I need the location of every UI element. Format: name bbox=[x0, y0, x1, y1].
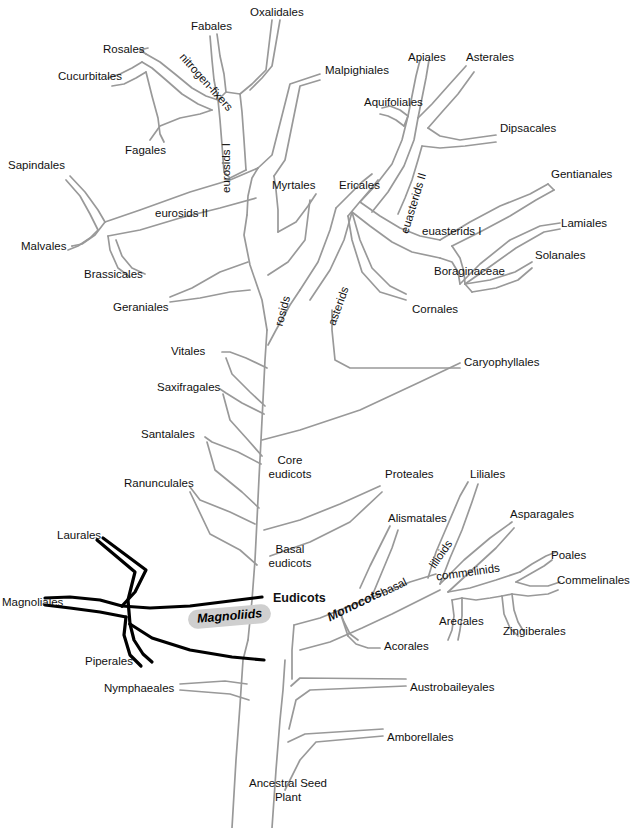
clade-label-eurosids-i: eurosids I bbox=[220, 143, 232, 193]
taxon-label-aquifoliales: Aquifoliales bbox=[364, 96, 423, 109]
taxon-label-brassicales: Brassicales bbox=[84, 268, 143, 281]
taxon-label-acorales: Acorales bbox=[384, 640, 429, 653]
branch-fabales-b bbox=[217, 34, 226, 92]
taxon-label-austrobaileyales: Austrobaileyales bbox=[410, 681, 494, 694]
taxon-label-zingiberales: Zingiberales bbox=[503, 625, 566, 638]
taxon-label-asterales: Asterales bbox=[466, 51, 514, 64]
branch-eudicot-left-wall bbox=[248, 330, 267, 640]
clade-label-core-eudicots: Core eudicots bbox=[255, 453, 325, 481]
taxon-label-lamiales: Lamiales bbox=[561, 217, 607, 230]
basal-eudicots-line1: Basal bbox=[276, 543, 305, 555]
branch-alismatales-a bbox=[360, 526, 390, 588]
taxon-label-rosales: Rosales bbox=[103, 43, 145, 56]
branch-fagales-b bbox=[146, 72, 164, 142]
taxon-label-cucurbitales: Cucurbitales bbox=[58, 70, 122, 83]
clade-label-eudicots: Eudicots bbox=[273, 592, 326, 605]
taxon-label-ericales: Ericales bbox=[339, 179, 380, 192]
branch-gent-tip bbox=[548, 184, 554, 190]
branch-santalales bbox=[207, 442, 259, 508]
core-eudicots-line2: eudicots bbox=[269, 468, 312, 480]
branch-acorales-b bbox=[348, 636, 380, 648]
branch-ranunculales-b bbox=[190, 487, 255, 524]
taxon-label-fagales: Fagales bbox=[125, 144, 166, 157]
branch-malpighiales-b bbox=[274, 80, 320, 176]
taxon-label-arecales: Arecales bbox=[439, 615, 484, 628]
branch-caryophyllales bbox=[262, 363, 460, 440]
phylogeny-diagram: Oxalidales Fabales Rosales Asterales Api… bbox=[0, 0, 634, 828]
root-label-line2: Plant bbox=[275, 791, 301, 803]
taxon-label-caryophyllales: Caryophyllales bbox=[464, 356, 539, 369]
branch-oxalidales-b bbox=[250, 20, 280, 90]
branch-santalales-b bbox=[205, 437, 261, 464]
branch-commelinales-a bbox=[516, 582, 560, 586]
taxon-label-dipsacales: Dipsacales bbox=[500, 122, 556, 135]
branch-dipsacales-b bbox=[422, 142, 496, 148]
branch-nymphaeales bbox=[180, 690, 249, 700]
branch-austrobaileyales bbox=[289, 686, 406, 729]
taxon-label-magnoliales: Magnoliales bbox=[2, 596, 63, 609]
taxon-label-fabales: Fabales bbox=[191, 20, 232, 33]
clade-label-basal-eudicots: Basal eudicots bbox=[255, 542, 325, 570]
branch-eurosidsI-right bbox=[240, 94, 246, 170]
branch-aquifoliales-b bbox=[380, 114, 404, 126]
taxon-label-commelinales: Commelinales bbox=[557, 574, 630, 587]
branch-proteales-a bbox=[264, 486, 380, 530]
taxon-label-ranunculales: Ranunculales bbox=[124, 477, 194, 490]
branch-trunk-upper-right bbox=[292, 625, 294, 679]
branch-cornales-b bbox=[352, 212, 406, 294]
clade-label-eurosids-ii: eurosids II bbox=[155, 207, 208, 220]
taxon-label-laurales: Laurales bbox=[57, 529, 101, 542]
root-label-line1: Ancestral Seed bbox=[249, 777, 327, 789]
branch-ranunculales bbox=[190, 492, 257, 565]
branch-sol-join bbox=[465, 284, 472, 292]
branch-asterids-left bbox=[300, 208, 336, 290]
core-eudicots-line1: Core bbox=[278, 454, 303, 466]
taxon-label-malpighiales: Malpighiales bbox=[325, 64, 389, 77]
taxon-label-boraginaceae: Boraginaceae bbox=[434, 265, 505, 278]
branch-arecales-join bbox=[452, 598, 462, 600]
taxon-label-nymphaeales: Nymphaeales bbox=[104, 682, 174, 695]
taxon-label-vitales: Vitales bbox=[171, 345, 205, 358]
taxon-label-liliales: Liliales bbox=[470, 468, 505, 481]
taxon-label-alismatales: Alismatales bbox=[388, 512, 447, 525]
taxon-label-santalales: Santalales bbox=[141, 428, 195, 441]
taxon-label-apiales: Apiales bbox=[408, 51, 446, 64]
branch-malpighiales-a bbox=[258, 74, 320, 168]
branch-nymphaeales-b bbox=[180, 681, 247, 684]
taxon-label-saxifragales: Saxifragales bbox=[157, 381, 220, 394]
branch-sapindales-b bbox=[66, 180, 98, 230]
taxon-label-oxalidales: Oxalidales bbox=[250, 6, 304, 19]
branch-rosid-trunk bbox=[247, 168, 258, 215]
branch-dipsacales-a bbox=[428, 128, 496, 140]
taxon-label-solanales: Solanales bbox=[535, 249, 586, 262]
taxon-label-amborellales: Amborellales bbox=[387, 731, 453, 744]
taxon-label-sapindales: Sapindales bbox=[8, 159, 65, 172]
taxon-label-cornales: Cornales bbox=[412, 303, 458, 316]
taxon-label-malvales: Malvales bbox=[21, 240, 66, 253]
branch-austrobaileyales-b bbox=[291, 678, 406, 686]
taxon-label-geraniales: Geraniales bbox=[113, 301, 169, 314]
branch-caryophyllales-b bbox=[332, 310, 460, 368]
basal-eudicots-line2: eudicots bbox=[269, 557, 312, 569]
branch-rosids-left bbox=[244, 215, 267, 330]
branch-commelinid-stem bbox=[462, 596, 502, 600]
taxon-label-proteales: Proteales bbox=[385, 468, 434, 481]
root-label-ancestral-seed-plant: Ancestral Seed Plant bbox=[228, 776, 348, 804]
taxon-label-piperales: Piperales bbox=[85, 655, 133, 668]
clade-label-euasterids-i: euasterids I bbox=[422, 225, 481, 238]
branch-malvales-a bbox=[68, 230, 98, 250]
taxon-label-gentianales: Gentianales bbox=[551, 168, 612, 181]
taxon-label-poales: Poales bbox=[551, 549, 586, 562]
taxon-label-asparagales: Asparagales bbox=[510, 508, 574, 521]
taxon-label-myrtales: Myrtales bbox=[272, 179, 315, 192]
branch-malvales-b bbox=[72, 222, 105, 246]
branch-sapindales-a bbox=[70, 176, 105, 222]
branch-laurales-a bbox=[103, 538, 146, 606]
branch-commelinales-b bbox=[512, 590, 558, 596]
branch-zing-join bbox=[502, 594, 512, 596]
